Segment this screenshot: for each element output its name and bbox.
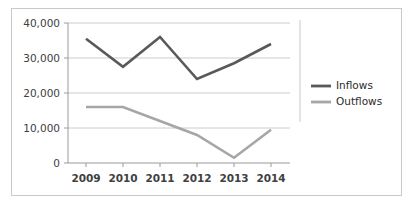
x-tick-label-2010: 2010 — [108, 172, 137, 184]
x-tick-label-2009: 2009 — [71, 172, 100, 184]
y-axis-labels-group: 40,000 30,000 20,000 10,000 0 — [23, 17, 60, 169]
series-line-outflows — [86, 107, 271, 158]
chart-plot-area: 40,000 30,000 20,000 10,000 0 2009 2010 … — [0, 0, 413, 204]
y-tick-label-40000: 40,000 — [23, 17, 60, 29]
y-tickmarks-group — [64, 23, 68, 163]
x-tick-label-2014: 2014 — [256, 172, 285, 184]
gridlines-group — [68, 23, 290, 128]
x-axis-labels-group: 2009 2010 2011 2012 2013 2014 — [71, 172, 285, 184]
x-tick-label-2012: 2012 — [182, 172, 211, 184]
x-tickmarks-group — [86, 163, 271, 167]
y-tick-label-20000: 20,000 — [23, 87, 60, 99]
data-series-group — [86, 37, 271, 158]
chart-legend: Inflows Outflows — [300, 20, 382, 122]
x-tick-label-2013: 2013 — [219, 172, 248, 184]
legend-label-inflows: Inflows — [336, 79, 373, 91]
line-chart-figure: 40,000 30,000 20,000 10,000 0 2009 2010 … — [0, 0, 413, 204]
y-tick-label-0: 0 — [53, 157, 60, 169]
y-tick-label-30000: 30,000 — [23, 52, 60, 64]
x-tick-label-2011: 2011 — [145, 172, 174, 184]
y-tick-label-10000: 10,000 — [23, 122, 60, 134]
legend-label-outflows: Outflows — [336, 95, 382, 107]
